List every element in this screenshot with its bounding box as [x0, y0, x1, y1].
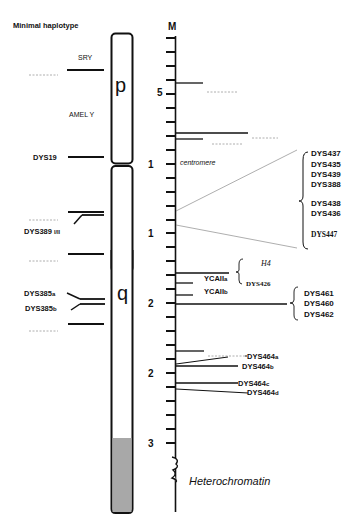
svg-text:DYS436: DYS436	[311, 209, 341, 218]
projection-line	[176, 225, 297, 248]
dys464b-label: DYS464b	[242, 362, 274, 371]
svg-text:DYS447: DYS447	[311, 230, 338, 239]
svg-text:DYS460: DYS460	[304, 299, 334, 308]
diagram-title: Minimal haplotype	[13, 21, 78, 30]
ycaii-a-label: YCAIIa	[204, 274, 228, 283]
dys389-label: DYS389I/II	[24, 227, 61, 236]
dys385b-connector	[71, 304, 80, 310]
ycaii-b-label: YCAIIb	[204, 287, 228, 296]
axis-break-icon	[172, 457, 177, 482]
dys464d-line	[176, 389, 248, 393]
svg-text:DYS437: DYS437	[311, 149, 341, 158]
svg-text:DYS388: DYS388	[311, 180, 341, 189]
cluster1-labels: DYS437 DYS435 DYS439 DYS388 DYS438 DYS43…	[311, 149, 341, 239]
brace	[236, 259, 243, 284]
heterochromatin-label: Heterochromatin	[189, 475, 270, 487]
svg-text:DYS435: DYS435	[311, 160, 341, 169]
dys464a-label: DYS464a	[247, 352, 279, 361]
dys464d-label: DYS464d	[247, 388, 279, 397]
dys464a-line	[176, 357, 228, 364]
ruler-ticks	[166, 38, 175, 443]
svg-text:DYS438: DYS438	[311, 199, 341, 208]
p-arm-label: p	[115, 74, 126, 96]
ruler-number: 5	[157, 87, 163, 98]
amel-label: AMEL Y	[69, 111, 95, 118]
dys464c-label: DYS464c	[238, 379, 270, 388]
dys385a-label: DYS385a	[24, 289, 56, 298]
ruler-number: 3	[148, 438, 154, 449]
cluster2-labels: DYS461 DYS460 DYS462	[304, 289, 334, 319]
brace	[299, 152, 308, 249]
y-chromosome-diagram: Minimal haplotype p q SRY AMEL Y DYS19 D…	[0, 0, 357, 530]
q-arm-label: q	[117, 282, 128, 304]
dys426-label: DYS426	[246, 280, 271, 288]
dys389-connector	[74, 215, 82, 224]
ruler-number: 2	[148, 298, 154, 309]
dys385b-label: DYS385b	[25, 304, 57, 313]
ruler-unit-label: M	[168, 21, 176, 32]
brace	[290, 287, 298, 320]
svg-text:DYS462: DYS462	[304, 310, 334, 319]
h4-label: H4	[260, 259, 271, 268]
dys385a-connector	[67, 293, 80, 299]
ruler-number: 1	[148, 159, 154, 170]
centromere-label: centromere	[180, 159, 216, 166]
heterochromatin-block	[113, 438, 132, 512]
sry-label: SRY	[78, 54, 93, 61]
ruler-number: 1	[148, 228, 154, 239]
chromosome-p-arm	[112, 34, 133, 164]
dys19-label: DYS19	[33, 153, 57, 162]
svg-text:DYS439: DYS439	[311, 170, 341, 179]
ruler-number: 2	[148, 368, 154, 379]
svg-text:DYS461: DYS461	[304, 289, 334, 298]
